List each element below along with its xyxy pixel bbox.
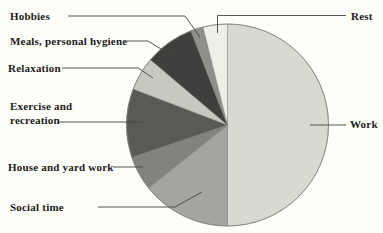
leader-line-hobbies <box>68 16 200 37</box>
label-hobbies: Hobbies <box>10 10 50 24</box>
label-meals-personal-hygiene: Meals, personal hygiene <box>10 35 127 49</box>
label-work: Work <box>350 118 378 132</box>
label-rest: Rest <box>351 10 373 24</box>
time-use-pie-chart: Hobbies Meals, personal hygiene Relaxati… <box>0 0 383 233</box>
label-house-and-yard-work: House and yard work <box>8 161 114 175</box>
label-relaxation: Relaxation <box>8 62 61 76</box>
label-exercise-and-recreation: Exercise and recreation <box>10 100 94 127</box>
label-social-time: Social time <box>10 201 64 215</box>
